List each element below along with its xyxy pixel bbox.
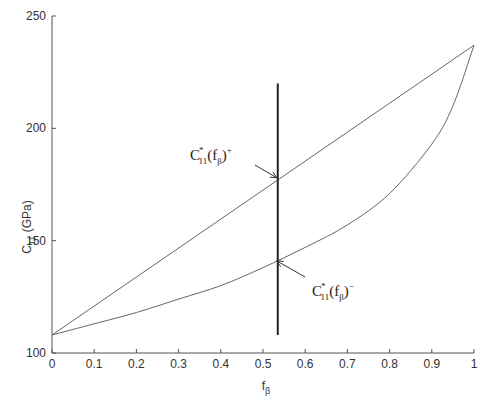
- x-tick-label: 0: [49, 357, 56, 371]
- y-tick-label: 100: [26, 346, 46, 360]
- x-tick-label: 0.7: [339, 357, 356, 371]
- chart: 00.10.20.30.40.50.60.70.80.9110015020025…: [0, 0, 488, 402]
- x-tick-label: 0.3: [170, 357, 187, 371]
- annotation-upper-bound: C*11(fβ)+: [190, 145, 232, 166]
- annotation-arrow-lower: [277, 261, 305, 277]
- ticks: 00.10.20.30.40.50.60.70.80.9110015020025…: [26, 9, 478, 371]
- y-tick-label: 250: [26, 9, 46, 23]
- y-axis-label: C11 (GPa): [20, 200, 37, 253]
- series-group: [52, 45, 474, 335]
- annotation-lower-bound: C*11(fβ)−: [312, 281, 354, 302]
- x-tick-label: 0.8: [381, 357, 398, 371]
- x-tick-label: 0.1: [86, 357, 103, 371]
- y-tick-label: 200: [26, 121, 46, 135]
- series-upper-bound: [52, 45, 474, 335]
- x-tick-label: 0.6: [297, 357, 314, 371]
- x-tick-label: 0.5: [255, 357, 272, 371]
- x-tick-label: 0.9: [423, 357, 440, 371]
- axes: [52, 16, 474, 353]
- x-tick-label: 0.2: [128, 357, 145, 371]
- x-axis-label: fβ: [262, 379, 271, 396]
- x-tick-label: 1: [471, 357, 478, 371]
- x-tick-label: 0.4: [212, 357, 229, 371]
- annotation-arrow-upper: [255, 165, 277, 178]
